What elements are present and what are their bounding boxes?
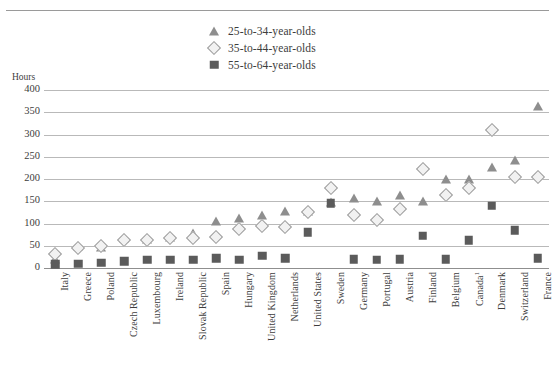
y-axis-tick-label: 250 (8, 150, 40, 161)
x-axis-label: United Kingdom (266, 272, 277, 341)
gridline (44, 135, 549, 136)
x-axis-label: Poland (105, 272, 116, 300)
y-axis-ticks: 400350300250200150100500 (4, 90, 40, 268)
legend-item-35-44[interactable]: 35-to-44-year-olds (207, 39, 316, 56)
y-axis-tick-label: 100 (8, 217, 40, 228)
y-axis-tick-label: 400 (8, 83, 40, 94)
chart-legend: 25-to-34-year-olds 35-to-44-year-olds 55… (207, 22, 316, 73)
legend-item-55-64[interactable]: 55-to-64-year-olds (207, 56, 316, 73)
x-axis-label: Slovak Republic (197, 272, 208, 340)
x-axis-labels: ItalyGreecePolandCzech RepublicLuxembour… (44, 272, 549, 367)
x-axis-label: Finland (427, 272, 438, 303)
gridline (44, 201, 549, 202)
x-axis-baseline (44, 268, 549, 269)
legend-item-25-34[interactable]: 25-to-34-year-olds (207, 22, 316, 39)
x-axis-label: Austria (404, 272, 415, 302)
y-axis-tick-label: 0 (8, 261, 40, 272)
square-marker-icon (207, 58, 221, 72)
x-axis-label: Greece (82, 272, 93, 301)
x-axis-label: Canada1 (473, 272, 485, 306)
x-axis-label: Germany (358, 272, 369, 310)
gridline (44, 157, 549, 158)
x-axis-label: Switzerland (519, 272, 530, 321)
y-axis-tick-label: 50 (8, 239, 40, 250)
x-axis-label: Luxembourg (151, 272, 162, 324)
x-axis-label: Sweden (335, 272, 346, 304)
legend-label: 55-to-64-year-olds (228, 59, 316, 71)
x-axis-label: United States (312, 272, 323, 327)
x-axis-label: France (542, 272, 553, 300)
legend-label: 25-to-34-year-olds (228, 25, 316, 37)
x-axis-label: Italy (59, 272, 70, 291)
x-axis-label: Ireland (174, 272, 185, 301)
y-axis-tick-label: 300 (8, 128, 40, 139)
y-axis-tick-label: 200 (8, 172, 40, 183)
x-axis-label: Spain (220, 272, 231, 295)
title-divider (6, 10, 549, 11)
legend-label: 35-to-44-year-olds (228, 42, 316, 54)
x-axis-label: Netherlands (289, 272, 300, 321)
x-axis-label: Hungary (243, 272, 254, 308)
x-axis-label: Denmark (496, 272, 507, 310)
x-axis-label: Portugal (381, 272, 392, 307)
chart-root: 25-to-34-year-olds 35-to-44-year-olds 55… (0, 0, 555, 367)
y-axis-tick-label: 350 (8, 105, 40, 116)
triangle-marker-icon (207, 24, 221, 38)
x-axis-label: Czech Republic (128, 272, 139, 337)
y-axis-tick-label: 150 (8, 194, 40, 205)
gridline (44, 224, 549, 225)
diamond-marker-icon (207, 41, 221, 55)
x-axis-label: Belgium (450, 272, 461, 307)
plot-area (44, 90, 549, 268)
gridline (44, 246, 549, 247)
y-axis-title: Hours (12, 72, 35, 82)
gridline (44, 112, 549, 113)
gridline (44, 90, 549, 91)
